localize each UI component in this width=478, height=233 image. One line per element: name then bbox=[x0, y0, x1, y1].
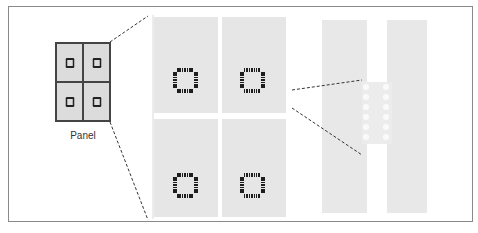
callout-lines bbox=[0, 0, 478, 233]
